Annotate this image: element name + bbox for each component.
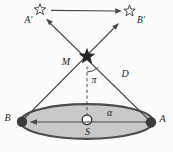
label-b-prime: B′ <box>137 16 145 26</box>
label-a: A <box>159 114 165 124</box>
label-pi: π <box>91 75 96 85</box>
label-b: B <box>4 113 10 123</box>
star-a-prime-icon <box>34 4 45 15</box>
label-alpha: α <box>107 108 112 118</box>
label-d: D <box>121 69 128 79</box>
apparent-shift-arrowhead-icon <box>115 8 122 13</box>
apparent-shift-arrow-line <box>51 10 116 11</box>
label-a-prime: A′ <box>25 16 33 26</box>
label-s: S <box>85 127 90 137</box>
sun-circle <box>82 115 92 125</box>
parallax-diagram: A′ B′ M π D α B A S <box>0 0 173 152</box>
star-b-prime-icon <box>124 5 135 16</box>
label-m: M <box>62 57 70 67</box>
orbit-point-b-dot <box>17 117 27 127</box>
orbit-point-a-dot <box>146 117 156 127</box>
